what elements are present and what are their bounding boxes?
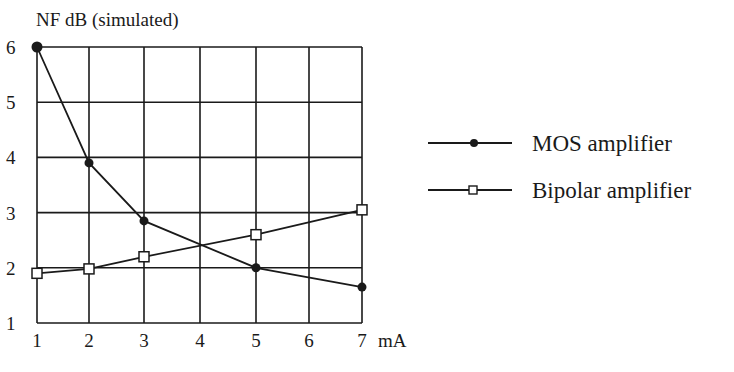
data-point-mos xyxy=(32,42,43,53)
chart: 123456 1234567 NF dB (simulated) mA MOS … xyxy=(0,0,734,372)
y-tick-labels: 123456 xyxy=(6,37,16,334)
data-point-mos xyxy=(358,283,367,292)
x-tick-label: 7 xyxy=(357,330,367,351)
grid xyxy=(37,47,362,323)
chart-title: NF dB (simulated) xyxy=(36,9,179,31)
data-point-bipolar xyxy=(139,252,149,262)
x-tick-label: 4 xyxy=(195,330,205,351)
y-tick-label: 5 xyxy=(6,92,16,113)
legend-marker-bipolar xyxy=(469,186,477,194)
x-tick-label: 5 xyxy=(251,330,261,351)
y-tick-label: 1 xyxy=(6,313,16,334)
legend-marker-mos xyxy=(470,139,478,147)
x-tick-label: 6 xyxy=(304,330,314,351)
legend: MOS amplifierBipolar amplifier xyxy=(428,131,691,203)
data-point-bipolar xyxy=(251,230,261,240)
data-point-bipolar xyxy=(32,268,42,278)
y-tick-label: 4 xyxy=(6,147,16,168)
data-point-bipolar xyxy=(84,264,94,274)
x-tick-label: 3 xyxy=(139,330,149,351)
y-tick-label: 3 xyxy=(6,203,16,224)
legend-label: MOS amplifier xyxy=(532,131,672,156)
x-axis-label: mA xyxy=(378,330,407,351)
legend-label: Bipolar amplifier xyxy=(532,178,691,203)
y-tick-label: 6 xyxy=(6,37,16,58)
data-point-bipolar xyxy=(357,205,367,215)
y-tick-label: 2 xyxy=(6,258,16,279)
x-tick-label: 2 xyxy=(84,330,94,351)
x-tick-labels: 1234567 xyxy=(32,330,367,351)
data-point-mos xyxy=(85,158,94,167)
x-tick-label: 1 xyxy=(32,330,42,351)
data-point-mos xyxy=(140,216,149,225)
data-point-mos xyxy=(252,263,261,272)
